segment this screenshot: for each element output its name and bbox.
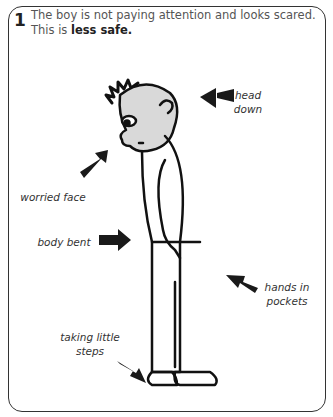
label-body-bent: body bent: [34, 235, 94, 249]
label-head-down: head down: [228, 88, 268, 116]
boy-illustration: [0, 0, 333, 417]
label-hands-in-pockets: hands in pockets: [262, 280, 312, 308]
label-worried-face: worried face: [18, 190, 88, 204]
label-taking-little-steps: taking little steps: [60, 330, 120, 358]
